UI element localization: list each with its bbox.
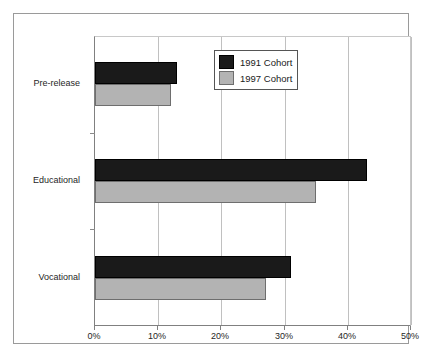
bar bbox=[95, 62, 177, 84]
y-axis-tick bbox=[90, 133, 95, 134]
legend-swatch-1991-cohort bbox=[219, 55, 234, 69]
gridline bbox=[411, 37, 412, 325]
x-axis-tick-label: 30% bbox=[264, 331, 304, 341]
chart-outer-frame: 0%10%20%30%40%50%Pre-releaseEducationalV… bbox=[13, 13, 409, 344]
x-axis-tick bbox=[220, 326, 221, 330]
x-axis-tick bbox=[94, 326, 95, 330]
legend-label-1991-cohort: 1991 Cohort bbox=[240, 57, 292, 68]
legend-item-series-2: 1997 Cohort bbox=[219, 70, 292, 86]
bar bbox=[95, 159, 367, 181]
x-axis-tick-label: 0% bbox=[74, 331, 114, 341]
x-axis-tick bbox=[157, 326, 158, 330]
x-axis-tick bbox=[284, 326, 285, 330]
legend-label-1997-cohort: 1997 Cohort bbox=[240, 73, 292, 84]
bar-chart: 0%10%20%30%40%50%Pre-releaseEducationalV… bbox=[0, 0, 423, 359]
y-axis-category-label: Pre-release bbox=[14, 78, 80, 88]
bar bbox=[95, 256, 291, 278]
bar bbox=[95, 84, 171, 106]
chart-legend: 1991 Cohort 1997 Cohort bbox=[214, 50, 298, 90]
x-axis-tick-label: 20% bbox=[200, 331, 240, 341]
bar bbox=[95, 181, 316, 203]
gridline bbox=[348, 37, 349, 325]
bar bbox=[95, 278, 266, 300]
x-axis-tick bbox=[347, 326, 348, 330]
legend-item-series-1: 1991 Cohort bbox=[219, 54, 292, 70]
x-axis-tick-label: 40% bbox=[327, 331, 367, 341]
x-axis-tick-label: 10% bbox=[137, 331, 177, 341]
y-axis-category-label: Vocational bbox=[14, 272, 80, 282]
x-axis-tick-label: 50% bbox=[390, 331, 423, 341]
y-axis-category-label: Educational bbox=[14, 175, 80, 185]
legend-swatch-1997-cohort bbox=[219, 71, 234, 85]
y-axis-tick bbox=[90, 229, 95, 230]
x-axis-tick bbox=[410, 326, 411, 330]
